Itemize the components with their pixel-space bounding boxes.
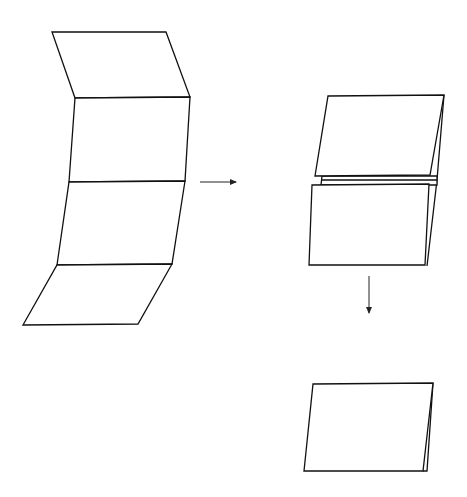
lower-panel xyxy=(309,184,429,265)
unfolded-strip xyxy=(23,32,190,325)
fully-folded-result xyxy=(304,383,433,471)
partially-folded-stack xyxy=(309,95,444,266)
strip-panel-3 xyxy=(57,181,185,265)
strip-panel-1 xyxy=(52,32,190,98)
strip-panel-2 xyxy=(69,97,190,182)
strip-panel-4 xyxy=(23,264,172,325)
folded-panel xyxy=(304,383,433,471)
upper-panel xyxy=(315,95,444,176)
folding-diagram xyxy=(0,0,467,497)
